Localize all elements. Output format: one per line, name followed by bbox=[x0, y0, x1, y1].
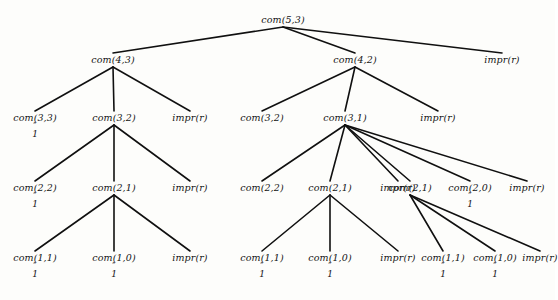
tree-node-n6: impr(r) bbox=[172, 113, 207, 123]
tree-node-label: com(4,2) bbox=[333, 55, 376, 65]
tree-node-n10: com(2,2)″1 bbox=[13, 183, 56, 209]
tree-node-n16: com(2,1) bbox=[388, 183, 431, 193]
tree-node-annotation-value: 1 bbox=[13, 270, 56, 279]
tree-node-label: com(5,3) bbox=[261, 15, 304, 25]
tree-node-n0: com(5,3) bbox=[261, 15, 304, 25]
tree-node-n11: com(2,1) bbox=[92, 183, 135, 193]
tree-node-annotation: ″1 bbox=[473, 263, 516, 279]
tree-node-annotation: ″1 bbox=[13, 263, 56, 279]
tree-node-label: impr(r) bbox=[420, 113, 455, 123]
tree-node-annotation: ″1 bbox=[13, 123, 56, 139]
tree-node-n26: com(1,0)″1 bbox=[473, 253, 516, 279]
tree-node-annotation-value: 1 bbox=[13, 130, 56, 139]
tree-node-n4: com(3,3)″1 bbox=[13, 113, 56, 139]
tree-node-label: com(3,2) bbox=[92, 113, 135, 123]
tree-node-label: impr(r) bbox=[172, 253, 207, 263]
tree-node-label: com(2,1) bbox=[308, 183, 351, 193]
tree-node-annotation: ″1 bbox=[240, 263, 283, 279]
tree-node-n14: com(2,1) bbox=[308, 183, 351, 193]
tree-node-n12: impr(r) bbox=[172, 183, 207, 193]
tree-node-annotation-value: 1 bbox=[92, 270, 135, 279]
tree-node-n27: impr(r) bbox=[522, 253, 557, 263]
tree-node-n9: impr(r) bbox=[420, 113, 455, 123]
tree-node-annotation-value: 1 bbox=[308, 270, 351, 279]
tree-edge-n1-n6 bbox=[113, 67, 190, 111]
tree-node-n2: com(4,2) bbox=[333, 55, 376, 65]
tree-node-label: impr(r) bbox=[172, 113, 207, 123]
tree-node-n25: com(1,1)″1 bbox=[421, 253, 464, 279]
tree-node-n7: com(3,2) bbox=[240, 113, 283, 123]
tree-edge-n16-n25 bbox=[410, 195, 443, 251]
tree-node-n23: com(1,0)″1 bbox=[308, 253, 351, 279]
tree-node-label: impr(r) bbox=[172, 183, 207, 193]
tree-node-label: com(4,3) bbox=[91, 55, 134, 65]
tree-node-annotation: ″1 bbox=[448, 193, 491, 209]
tree-edge-n0-n1 bbox=[113, 27, 283, 53]
tree-node-label: com(3,1) bbox=[323, 113, 366, 123]
tree-edge-n14-n24 bbox=[330, 195, 398, 251]
tree-edge-n8-n16 bbox=[345, 125, 410, 181]
tree-node-n22: com(1,1)″1 bbox=[240, 253, 283, 279]
tree-edge-n11-n21 bbox=[114, 195, 190, 251]
tree-node-annotation-value: 1 bbox=[240, 270, 283, 279]
tree-node-n17: com(2,0)″1 bbox=[448, 183, 491, 209]
tree-edge-n1-n4 bbox=[35, 67, 113, 111]
tree-node-n8: com(3,1) bbox=[323, 113, 366, 123]
tree-node-annotation: ″1 bbox=[13, 193, 56, 209]
tree-node-n21: impr(r) bbox=[172, 253, 207, 263]
tree-node-label: impr(r) bbox=[484, 55, 519, 65]
tree-node-annotation-value: 1 bbox=[448, 200, 491, 209]
tree-node-annotation: ″1 bbox=[308, 263, 351, 279]
tree-node-n3: impr(r) bbox=[484, 55, 519, 65]
tree-edge-n1-n5 bbox=[113, 67, 114, 111]
tree-edge-n0-n3 bbox=[283, 27, 502, 53]
tree-node-n1: com(4,3) bbox=[91, 55, 134, 65]
tree-node-n24: impr(r) bbox=[380, 253, 415, 263]
tree-node-annotation-value: 1 bbox=[421, 270, 464, 279]
tree-node-label: impr(r) bbox=[522, 253, 557, 263]
tree-node-label: impr(r) bbox=[509, 183, 544, 193]
tree-node-label: com(3,2) bbox=[240, 113, 283, 123]
tree-edge-n2-n9 bbox=[355, 67, 438, 111]
tree-node-label: com(2,2) bbox=[240, 183, 283, 193]
tree-node-n19: com(1,1)″1 bbox=[13, 253, 56, 279]
tree-node-n13: com(2,2) bbox=[240, 183, 283, 193]
tree-node-annotation-value: 1 bbox=[13, 200, 56, 209]
tree-node-n18: impr(r) bbox=[509, 183, 544, 193]
tree-node-label: impr(r) bbox=[380, 253, 415, 263]
tree-node-n5: com(3,2) bbox=[92, 113, 135, 123]
tree-node-annotation: ″1 bbox=[92, 263, 135, 279]
tree-edge-n5-n12 bbox=[114, 125, 190, 181]
tree-node-n20: com(1,0)″1 bbox=[92, 253, 135, 279]
tree-node-annotation: ″1 bbox=[421, 263, 464, 279]
tree-edge-n2-n7 bbox=[262, 67, 355, 111]
tree-edge-n8-n17 bbox=[345, 125, 470, 181]
tree-node-label: com(2,1) bbox=[388, 183, 431, 193]
tree-node-annotation-value: 1 bbox=[473, 270, 516, 279]
tree-edge-n2-n8 bbox=[345, 67, 355, 111]
tree-node-label: com(2,1) bbox=[92, 183, 135, 193]
tree-edge-n14-n22 bbox=[262, 195, 330, 251]
